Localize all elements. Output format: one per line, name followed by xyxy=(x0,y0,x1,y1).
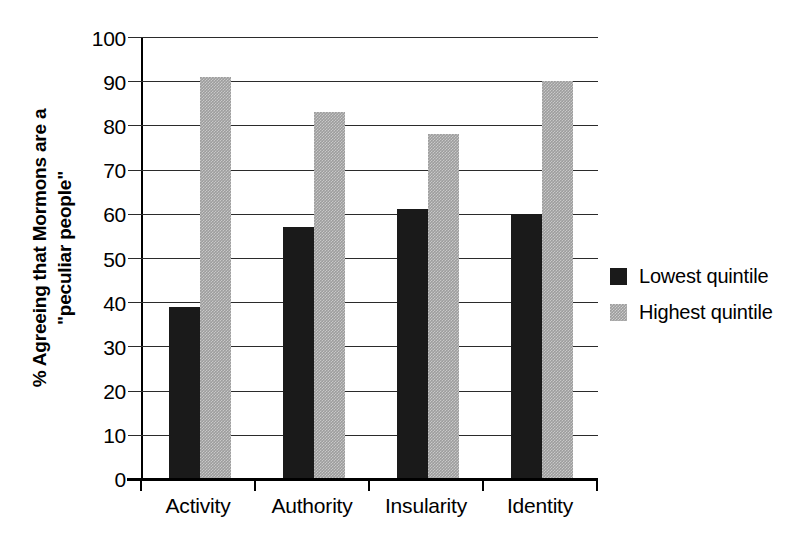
x-axis-label-activity: Activity xyxy=(141,495,255,516)
bar-insularity-highest xyxy=(428,134,459,479)
legend-item-lowest-quintile: Lowest quintile xyxy=(610,258,773,294)
legend-label-lowest-quintile: Lowest quintile xyxy=(639,266,768,286)
x-axis-line xyxy=(127,478,598,481)
y-tick-10 xyxy=(128,435,142,436)
y-tick-20 xyxy=(128,391,142,392)
y-tick-40 xyxy=(128,302,142,303)
gridline-100 xyxy=(141,37,598,38)
y-tick-label-70: 70 xyxy=(70,160,126,181)
bar-identity-highest xyxy=(542,81,573,479)
x-tick-identity xyxy=(596,478,598,491)
y-tick-80 xyxy=(128,125,142,126)
y-tick-90 xyxy=(128,81,142,82)
y-tick-label-50: 50 xyxy=(70,249,126,270)
bar-insularity-lowest xyxy=(397,209,428,479)
y-tick-label-0: 0 xyxy=(70,469,126,490)
legend-label-highest-quintile: Highest quintile xyxy=(639,302,773,322)
y-tick-label-40: 40 xyxy=(70,293,126,314)
bar-activity-lowest xyxy=(169,307,200,479)
x-axis-label-identity: Identity xyxy=(483,495,597,516)
y-tick-label-90: 90 xyxy=(70,72,126,93)
y-tick-label-100: 100 xyxy=(70,28,126,49)
y-tick-50 xyxy=(128,258,142,259)
bar-identity-lowest xyxy=(511,214,542,479)
y-tick-60 xyxy=(128,214,142,215)
x-tick-start xyxy=(140,478,142,491)
y-tick-label-60: 60 xyxy=(70,204,126,225)
x-axis-label-authority: Authority xyxy=(255,495,369,516)
y-tick-70 xyxy=(128,170,142,171)
bar-activity-highest xyxy=(200,77,231,479)
y-tick-label-10: 10 xyxy=(70,425,126,446)
legend-swatch-highest-quintile xyxy=(610,304,627,321)
y-tick-label-30: 30 xyxy=(70,337,126,358)
y-tick-label-80: 80 xyxy=(70,116,126,137)
bar-authority-lowest xyxy=(283,227,314,479)
bar-chart: % Agreeing that Mormons are a "peculiar … xyxy=(0,0,803,556)
plot-area xyxy=(141,37,598,479)
y-axis-title: % Agreeing that Mormons are a "peculiar … xyxy=(24,28,80,468)
x-axis-label-insularity: Insularity xyxy=(369,495,483,516)
y-tick-label-20: 20 xyxy=(70,381,126,402)
bar-authority-highest xyxy=(314,112,345,479)
x-tick-authority xyxy=(368,478,370,491)
y-axis-title-line-1: % Agreeing that Mormons are a xyxy=(27,109,52,388)
x-tick-activity xyxy=(254,478,256,491)
legend-item-highest-quintile: Highest quintile xyxy=(610,294,773,330)
legend-swatch-lowest-quintile xyxy=(610,268,627,285)
legend: Lowest quintile Highest quintile xyxy=(610,258,773,330)
x-tick-insularity xyxy=(482,478,484,491)
y-tick-100 xyxy=(128,37,142,38)
y-tick-30 xyxy=(128,346,142,347)
